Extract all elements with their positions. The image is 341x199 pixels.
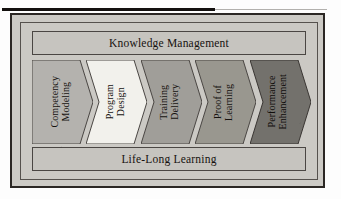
knowledge-management-band: Knowledge Management [32,31,306,55]
process-step-label: Performance Enhancement [266,74,289,130]
process-step-1[interactable]: Competency Modeling [32,60,93,144]
diagram-inner-panel: Knowledge Management Competency Modeling… [20,22,318,180]
process-step-label: Program Design [104,84,127,119]
process-step-5[interactable]: Performance Enhancement [250,60,311,144]
process-step-4[interactable]: Proof of Learning [195,60,256,144]
process-step-label: Proof of Learning [212,84,235,121]
process-diagram-figure: Knowledge Management Competency Modeling… [0,0,341,199]
life-long-learning-band: Life-Long Learning [32,147,306,171]
process-chevron-row: Competency ModelingProgram DesignTrainin… [32,60,308,144]
top-horizontal-rule-thin [215,9,327,10]
process-step-3[interactable]: Training Delivery [141,60,202,144]
process-step-label: Training Delivery [158,84,181,120]
diagram-outer-frame: Knowledge Management Competency Modeling… [10,13,325,188]
top-horizontal-rule [2,8,215,11]
process-step-2[interactable]: Program Design [86,60,147,144]
process-step-label: Competency Modeling [49,76,72,128]
